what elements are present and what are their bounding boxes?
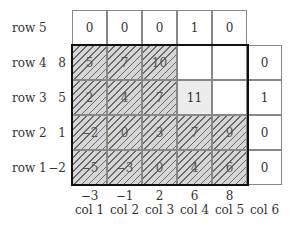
grid-cell: 1 <box>247 80 282 115</box>
row-label: row 4 <box>12 56 47 70</box>
grid-cell: 0 <box>142 10 177 45</box>
grid-cell <box>212 80 247 115</box>
grid-cell-hatched: 9 <box>212 115 247 150</box>
grid-cell-hatched: 6 <box>212 150 247 185</box>
row-value: 1 <box>46 126 66 140</box>
grid-cell-hatched: 5 <box>72 45 107 80</box>
grid-cell: 0 <box>247 45 282 80</box>
column-value: 8 <box>212 189 247 203</box>
column-value: 6 <box>177 189 212 203</box>
column-label: col 5 <box>212 203 247 217</box>
row-label: row 2 <box>12 126 47 140</box>
grid-cell-hatched: 0 <box>142 150 177 185</box>
column-value: −1 <box>107 189 142 203</box>
column-value: −3 <box>72 189 107 203</box>
row-label: row 3 <box>12 91 47 105</box>
grid-cell-hatched: 7 <box>107 45 142 80</box>
column-label: col 1 <box>72 203 107 217</box>
grid-cell-hatched: −5 <box>72 150 107 185</box>
grid-cell: 0 <box>107 10 142 45</box>
grid-cell-hatched: 3 <box>142 115 177 150</box>
grid-cell <box>212 45 247 80</box>
row-label: row 5 <box>12 21 47 35</box>
row-value: 8 <box>46 56 66 70</box>
grid-cell-hatched: −3 <box>107 150 142 185</box>
row-label: row 1 <box>12 161 47 175</box>
grid-cell-highlighted: 11 <box>177 80 212 115</box>
row-value: 5 <box>46 91 66 105</box>
grid-cell: 0 <box>247 150 282 185</box>
grid-cell: 0 <box>212 10 247 45</box>
grid-cell <box>177 45 212 80</box>
grid-cell-hatched: 10 <box>142 45 177 80</box>
grid-cell: 0 <box>247 115 282 150</box>
grid-cell: 1 <box>177 10 212 45</box>
column-label: col 2 <box>107 203 142 217</box>
grid-cell-hatched: 2 <box>72 80 107 115</box>
grid-cell-hatched: −2 <box>72 115 107 150</box>
column-value: 2 <box>142 189 177 203</box>
grid-cell-hatched: 7 <box>142 80 177 115</box>
grid-cell: 0 <box>72 10 107 45</box>
row-value: −2 <box>46 161 66 175</box>
column-label: col 4 <box>177 203 212 217</box>
column-label: col 3 <box>142 203 177 217</box>
column-label: col 6 <box>247 203 282 217</box>
grid-cell-hatched: 7 <box>177 115 212 150</box>
grid-cell-hatched: 4 <box>177 150 212 185</box>
grid-cell-hatched: 4 <box>107 80 142 115</box>
grid-cell-hatched: 0 <box>107 115 142 150</box>
